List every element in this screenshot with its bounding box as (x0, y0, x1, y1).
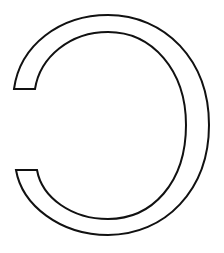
reversed-c-shape (0, 0, 224, 253)
reversed-c-outline (14, 15, 209, 235)
figure-canvas: Outlined reversed letter C shape (open o… (0, 0, 224, 253)
